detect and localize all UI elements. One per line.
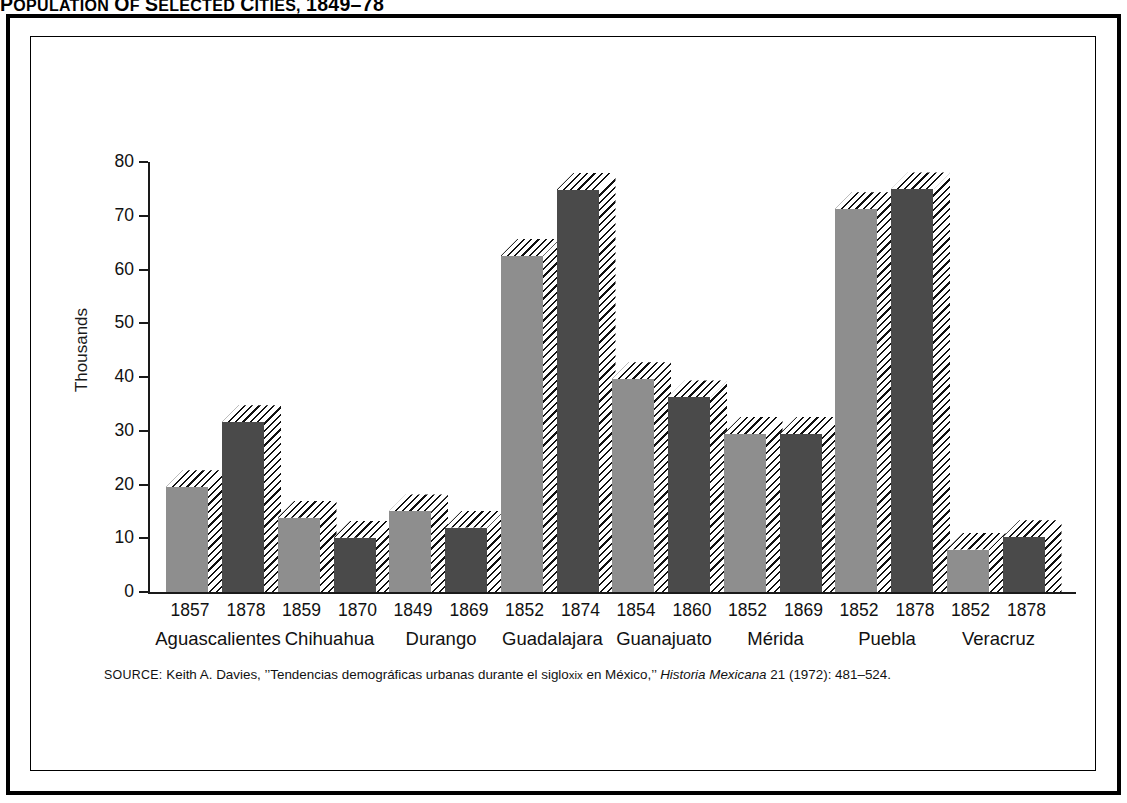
- y-tick-mark: [139, 215, 148, 217]
- bar[interactable]: [445, 0, 504, 592]
- source-article-title-close: en México,’’: [586, 667, 656, 682]
- bar-front-face: [334, 538, 376, 592]
- y-tick-label: 20: [90, 476, 134, 494]
- bar-front-face: [557, 190, 599, 592]
- y-tick-mark: [139, 537, 148, 539]
- y-tick-mark: [139, 376, 148, 378]
- bar-front-face: [947, 550, 989, 592]
- bar[interactable]: [891, 0, 950, 592]
- y-axis-line: [148, 162, 150, 594]
- source-author: Keith A. Davies,: [166, 667, 261, 682]
- source-pages: : 481–524.: [828, 667, 891, 682]
- bar-front-face: [1003, 537, 1045, 592]
- source-keyword: SOURCE:: [104, 668, 163, 682]
- x-axis-line: [148, 592, 1076, 594]
- y-axis-title: Thousands: [72, 250, 92, 450]
- bar[interactable]: [668, 0, 727, 592]
- bar-front-face: [166, 487, 208, 592]
- y-tick-label: 0: [90, 583, 134, 601]
- bar-front-face: [780, 434, 822, 592]
- bar[interactable]: [222, 0, 281, 592]
- bar-front-face: [389, 511, 431, 592]
- source-century: xix: [569, 669, 583, 681]
- source-note: SOURCE: Keith A. Davies, ’’Tendencias de…: [104, 666, 1044, 683]
- source-volume: 21: [770, 667, 785, 682]
- bar[interactable]: [835, 0, 894, 592]
- bar[interactable]: [389, 0, 448, 592]
- bar-front-face: [612, 379, 654, 592]
- y-tick-mark: [139, 430, 148, 432]
- x-tick-year-label: 1878: [992, 600, 1062, 621]
- bar[interactable]: [557, 0, 616, 592]
- y-tick-label: 80: [90, 153, 134, 171]
- bar-front-face: [445, 528, 487, 593]
- y-tick-mark: [139, 269, 148, 271]
- y-tick-label: 30: [90, 422, 134, 440]
- y-tick-label: 10: [90, 529, 134, 547]
- y-tick-label: 70: [90, 207, 134, 225]
- bar[interactable]: [278, 0, 337, 592]
- bar-front-face: [835, 209, 877, 592]
- bar[interactable]: [166, 0, 225, 592]
- bar-front-face: [222, 422, 264, 592]
- bar[interactable]: [947, 0, 1006, 592]
- bar[interactable]: [334, 0, 393, 592]
- bar[interactable]: [780, 0, 839, 592]
- y-tick-label: 50: [90, 314, 134, 332]
- x-axis-category-label: Veracruz: [879, 628, 1119, 650]
- source-article-title-open: ’’Tendencias demográficas urbanas durant…: [265, 667, 569, 682]
- bar[interactable]: [612, 0, 671, 592]
- y-tick-mark: [139, 591, 148, 593]
- bar[interactable]: [724, 0, 783, 592]
- y-tick-mark: [139, 484, 148, 486]
- y-tick-mark: [139, 161, 148, 163]
- y-tick-label: 60: [90, 261, 134, 279]
- bar-front-face: [891, 189, 933, 592]
- y-tick-label: 40: [90, 368, 134, 386]
- bar-front-face: [668, 397, 710, 592]
- source-year: (1972): [789, 667, 828, 682]
- bar-front-face: [278, 518, 320, 592]
- bar[interactable]: [1003, 0, 1062, 592]
- bar-front-face: [724, 434, 766, 592]
- y-tick-mark: [139, 322, 148, 324]
- source-journal: Historia Mexicana: [660, 667, 766, 682]
- bar[interactable]: [501, 0, 560, 592]
- bar-front-face: [501, 256, 543, 592]
